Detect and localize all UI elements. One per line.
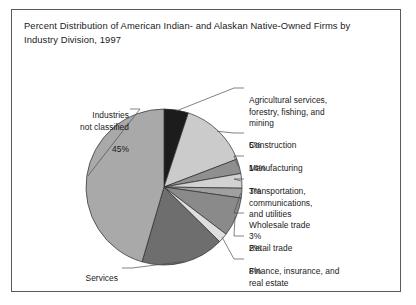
slice-label-construction-text: Construction <box>249 140 297 150</box>
figure-panel: Percent Distribution of American Indian-… <box>11 9 401 292</box>
slice-label-manufacturing-text: Manufacturing <box>249 163 303 173</box>
slice-label-industries-not-classified: Industries not classified 45% <box>24 99 129 155</box>
leader-line <box>234 217 244 236</box>
leader-line <box>222 237 244 259</box>
slice-label-finance: Finance, insurance, and real estate 2% <box>249 255 339 292</box>
leader-line <box>217 131 244 133</box>
slice-label-wholesale-text: Wholesale trade <box>249 220 310 230</box>
leader-line <box>176 88 244 111</box>
slice-value-industries-not-classified: 45% <box>112 144 129 154</box>
slice-label-agricultural-text: Agricultural services, forestry, fishing… <box>249 95 327 128</box>
slice-label-finance-text: Finance, insurance, and real estate <box>249 266 339 287</box>
slice-label-services-text: Services <box>86 273 118 283</box>
chart-area: Agricultural services, forestry, fishing… <box>12 10 401 292</box>
slice-label-industries-not-classified-text: Industries not classified <box>80 110 129 131</box>
slice-label-retail-text: Retail trade <box>249 243 292 253</box>
slice-label-services: Services 17% <box>24 262 118 292</box>
